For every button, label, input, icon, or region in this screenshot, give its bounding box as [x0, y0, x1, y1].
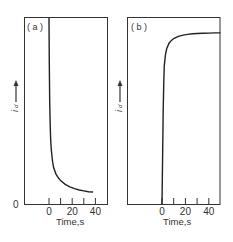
panel-a-y-label-sub: d — [13, 104, 19, 108]
up-arrow-head — [118, 80, 123, 86]
panel-a-x-axis-label: Time,s — [56, 216, 84, 227]
panel-a-y-label-i: i — [10, 109, 20, 112]
panel-b-label: ( b ) — [131, 22, 147, 32]
panel-b-series-line — [162, 33, 221, 204]
figure: ( a ) 02040 0 Time,s i d ( b ) 02040 Tim… — [0, 0, 233, 242]
panel-b: ( b ) 02040 Time,s i d — [114, 18, 221, 228]
x-tick-label: 40 — [203, 206, 215, 217]
panel-b-frame — [128, 18, 221, 205]
x-tick-label: 40 — [90, 206, 102, 217]
x-tick-label: 0 — [46, 206, 52, 217]
panel-a-frame — [25, 18, 108, 205]
up-arrow-head — [14, 80, 19, 86]
panel-b-x-axis-label: Time,s — [163, 216, 191, 227]
panel-a-x-ticks — [49, 198, 95, 204]
panel-b-y-axis-label: i d — [114, 80, 124, 112]
panel-a-series-line — [49, 18, 93, 192]
panel-b-x-ticks — [162, 198, 209, 204]
panel-a-label: ( a ) — [27, 22, 43, 32]
panel-a-y-zero-label: 0 — [13, 199, 19, 210]
panel-b-y-label-sub: d — [117, 104, 123, 108]
panel-a: ( a ) 02040 0 Time,s i d — [10, 18, 108, 228]
panel-a-y-axis-label: i d — [10, 80, 20, 112]
panel-b-y-label-i: i — [114, 109, 124, 112]
